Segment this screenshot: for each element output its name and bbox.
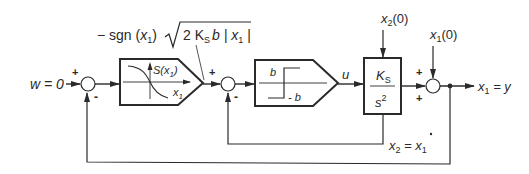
svg-text:− sgn (x1): − sgn (x1) bbox=[97, 27, 157, 45]
control-block-diagram: w = 0 + - S(x1) x1 − sgn (x1) 2 KSb | x1… bbox=[0, 0, 529, 174]
summing-junction-3: + + bbox=[416, 66, 440, 104]
svg-text:2 KSb | x1 |: 2 KSb | x1 | bbox=[183, 27, 251, 45]
input-label: w = 0 bbox=[30, 76, 64, 92]
sum1-minus-sign: - bbox=[94, 90, 98, 104]
relay-block: b - b bbox=[255, 60, 338, 106]
u-label: u bbox=[342, 67, 349, 82]
output-label: x1 = y bbox=[477, 79, 512, 96]
svg-text:b: b bbox=[270, 66, 276, 78]
sum2-minus-sign: - bbox=[234, 90, 238, 104]
switching-curve-block: S(x1) x1 bbox=[120, 59, 203, 105]
summing-junction-1: + - bbox=[72, 66, 98, 104]
derivative-dot bbox=[430, 133, 432, 135]
x2-initial-label: x2(0) bbox=[380, 11, 408, 28]
plant-block: KS s2 bbox=[364, 58, 401, 114]
svg-text:- b: - b bbox=[288, 91, 301, 103]
sum3-left-plus-sign: + bbox=[416, 92, 422, 104]
summing-junction-2: + - bbox=[209, 66, 238, 104]
x1-initial-label: x1(0) bbox=[429, 27, 457, 44]
velocity-label: x2 = x1 bbox=[388, 138, 427, 155]
sum2-plus-sign: + bbox=[209, 66, 215, 78]
sum3-top-plus-sign: + bbox=[416, 66, 422, 78]
sum1-plus-sign: + bbox=[72, 66, 78, 78]
